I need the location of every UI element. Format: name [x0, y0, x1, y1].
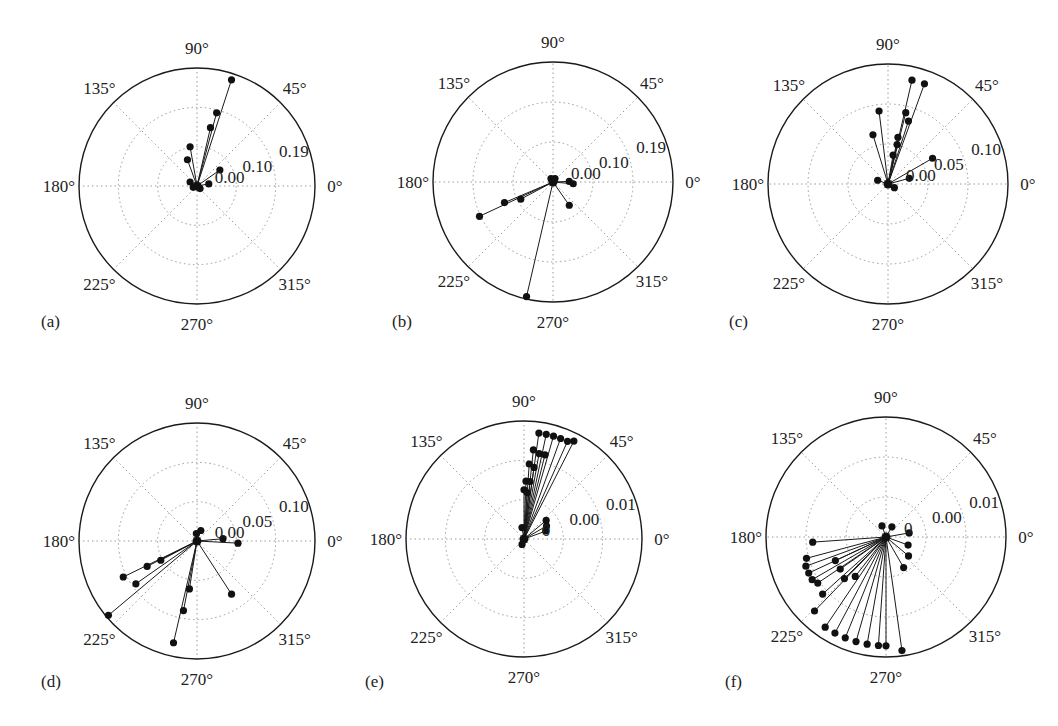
data-point-marker [921, 80, 928, 87]
angle-tick-label: 90° [185, 394, 209, 413]
data-point-marker [186, 143, 193, 150]
grid-spoke [468, 182, 553, 267]
angle-tick-label: 270° [181, 315, 213, 334]
radial-tick-label: 0.19 [279, 142, 309, 161]
angle-tick-label: 315° [971, 274, 1003, 293]
grid-spoke [888, 184, 973, 269]
grid-spoke [468, 97, 553, 182]
data-point-marker [186, 585, 193, 592]
grid-spoke [441, 456, 524, 539]
data-point-marker [900, 564, 907, 571]
angle-tick-label: 0° [327, 532, 342, 551]
data-point-marker [193, 530, 200, 537]
data-point-marker [832, 557, 839, 564]
angle-tick-label: 315° [969, 627, 1001, 646]
radial-tick-label: 0.00 [906, 166, 936, 185]
stem-line [504, 182, 553, 203]
radial-tick-label: 0.00 [215, 523, 245, 542]
data-point-marker [905, 541, 912, 548]
data-point-marker [518, 524, 525, 531]
data-point-marker [819, 590, 826, 597]
polar-panel-c: 0°45°90°135°180°225°270°315°0.000.050.10 [732, 35, 1036, 334]
origin-marker [549, 178, 558, 187]
angle-tick-label: 225° [83, 630, 115, 649]
angle-tick-label: 225° [438, 272, 470, 291]
data-point-marker [864, 641, 871, 648]
origin-marker [520, 535, 529, 544]
data-point-marker [802, 563, 809, 570]
data-point-marker [184, 156, 191, 163]
angle-tick-label: 135° [438, 74, 470, 93]
angle-tick-label: 0° [1018, 528, 1033, 547]
angle-tick-label: 45° [283, 79, 307, 98]
panel-label-d: (d) [41, 672, 61, 692]
angle-tick-label: 135° [771, 429, 803, 448]
data-point-marker [207, 124, 214, 131]
data-point-marker [517, 196, 524, 203]
grid-spoke [114, 103, 197, 186]
angle-tick-label: 0° [654, 530, 669, 549]
polar-panel-f: 0°45°90°135°180°225°270°315°00.000.01 [730, 388, 1034, 687]
data-point-marker [874, 177, 881, 184]
radial-tick-label: 0.10 [279, 497, 309, 516]
stem-line [521, 182, 553, 199]
data-point-marker [831, 629, 838, 636]
data-point-marker [875, 107, 882, 114]
data-point-marker [170, 639, 177, 646]
data-point-marker [132, 580, 139, 587]
data-point-marker [841, 575, 848, 582]
data-point-marker [120, 573, 127, 580]
data-point-marker [535, 450, 542, 457]
angle-tick-label: 90° [541, 33, 565, 52]
polar-panel-a: 0°45°90°135°180°225°270°315°0.000.100.19 [43, 39, 343, 334]
data-point-marker [890, 151, 897, 158]
stem-line [161, 541, 197, 560]
data-point-marker [157, 557, 164, 564]
radial-tick-label: 0.05 [934, 155, 964, 174]
data-point-marker [550, 433, 557, 440]
stem-line [174, 541, 197, 643]
data-point-marker [557, 435, 564, 442]
grid-spoke [886, 537, 971, 622]
panel-label-a: (a) [41, 312, 60, 332]
data-point-marker [902, 109, 909, 116]
data-point-marker [530, 464, 537, 471]
data-point-marker [205, 180, 212, 187]
data-point-marker [144, 563, 151, 570]
data-point-marker [524, 489, 531, 496]
data-point-marker [805, 569, 812, 576]
data-point-marker [888, 523, 895, 530]
radial-tick-label: 0.10 [971, 140, 1001, 159]
angle-tick-label: 135° [773, 76, 805, 95]
data-point-marker [535, 429, 542, 436]
data-point-marker [228, 76, 235, 83]
angle-tick-label: 270° [872, 315, 904, 334]
data-point-marker [811, 607, 818, 614]
data-point-marker [878, 522, 885, 529]
radial-tick-label: 0.00 [571, 164, 601, 183]
data-point-marker [803, 555, 810, 562]
radial-tick-label: 0.00 [215, 168, 245, 187]
figure-canvas: 0°45°90°135°180°225°270°315°0.000.100.19… [0, 0, 1058, 726]
data-point-marker [501, 199, 508, 206]
angle-tick-label: 90° [876, 35, 900, 54]
data-point-marker [905, 117, 912, 124]
angle-tick-label: 45° [973, 429, 997, 448]
angle-tick-label: 45° [610, 432, 634, 451]
polar-panel-b: 0°45°90°135°180°225°270°315°0.000.100.19 [397, 33, 701, 332]
data-point-marker [523, 293, 530, 300]
data-point-marker [852, 638, 859, 645]
stem-line [136, 541, 197, 584]
data-point-marker [105, 612, 112, 619]
angle-tick-label: 0° [1020, 175, 1035, 194]
angle-tick-label: 135° [410, 432, 442, 451]
angle-tick-label: 270° [181, 670, 213, 689]
data-point-marker [564, 438, 571, 445]
polar-figure: 0°45°90°135°180°225°270°315°0.000.100.19… [0, 0, 1058, 726]
angle-tick-label: 315° [278, 275, 310, 294]
angle-tick-label: 225° [83, 275, 115, 294]
angle-tick-label: 45° [975, 76, 999, 95]
data-point-marker [543, 431, 550, 438]
stem-line [879, 111, 888, 184]
data-point-marker [526, 478, 533, 485]
